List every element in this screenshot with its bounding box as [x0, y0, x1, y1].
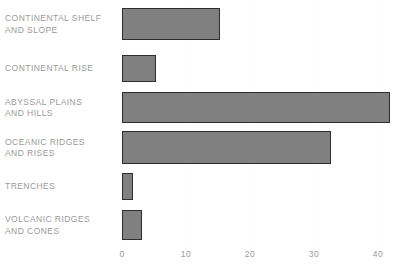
category-label: CONTINENTAL SHELF AND SLOPE [5, 13, 119, 35]
x-tick-label: 10 [181, 249, 191, 259]
horizontal-bar-chart: CONTINENTAL SHELF AND SLOPECONTINENTAL R… [0, 0, 407, 268]
category-label: TRENCHES [5, 181, 119, 192]
x-axis: 010203040 [0, 245, 407, 268]
x-tick-label: 30 [309, 249, 319, 259]
bar [122, 8, 220, 40]
bar [122, 55, 156, 82]
x-tick-label: 20 [245, 249, 255, 259]
category-label: VOLCANIC RIDGES AND CONES [5, 214, 119, 236]
x-tick-label: 0 [119, 249, 124, 259]
category-label: OCEANIC RIDGES AND RISES [5, 137, 119, 159]
bar [122, 92, 390, 123]
bar [122, 173, 133, 200]
bar [122, 210, 142, 240]
x-tick-label: 40 [373, 249, 383, 259]
category-label: CONTINENTAL RISE [5, 63, 119, 74]
bar [122, 131, 331, 164]
category-label: ABYSSAL PLAINS AND HILLS [5, 97, 119, 119]
